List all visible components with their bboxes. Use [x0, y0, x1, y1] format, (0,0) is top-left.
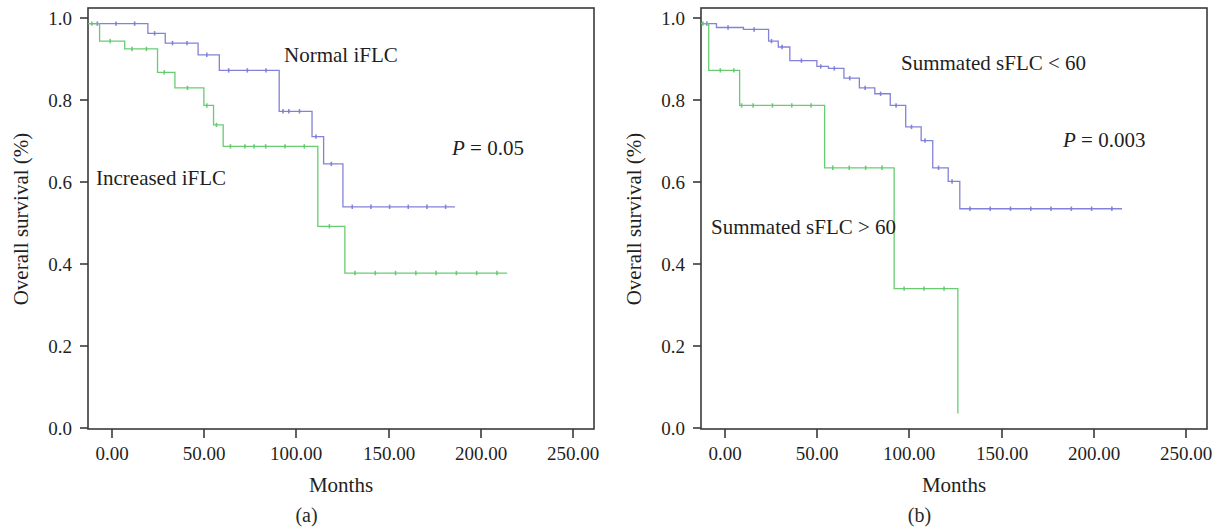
curve-label-increased-iflc: Increased iFLC: [96, 166, 226, 190]
x-tick-label-150: 150.00: [363, 443, 415, 464]
x-tick-label-0: 0.00: [708, 443, 741, 464]
x-tick-label-100: 100.00: [270, 443, 322, 464]
pvalue-symbol: P: [1062, 128, 1076, 152]
x-tick-label-50: 50.00: [796, 443, 839, 464]
y-tick-label-00: 0.0: [48, 418, 72, 439]
y-axis-ticks-a: [80, 18, 88, 428]
panel-b: 1.0 0.8 0.6 0.4 0.2 0.0 0.00 50.00 100.0…: [613, 0, 1226, 531]
y-tick-label-1: 1.0: [48, 8, 72, 29]
x-axis-title: Months: [309, 473, 373, 497]
x-tick-label-0: 0.00: [95, 443, 128, 464]
y-tick-label-06: 0.6: [48, 172, 72, 193]
y-tick-label-04: 0.4: [661, 254, 685, 275]
pvalue-annotation: P = 0.05: [451, 136, 524, 160]
x-tick-label-250: 250.00: [1160, 443, 1212, 464]
x-axis-ticks-a: [112, 429, 573, 438]
y-tick-label-1: 1.0: [661, 8, 685, 29]
x-tick-label-250: 250.00: [547, 443, 599, 464]
y-tick-label-02: 0.2: [48, 336, 72, 357]
x-tick-label-200: 200.00: [1068, 443, 1120, 464]
panel-b-plot: 1.0 0.8 0.6 0.4 0.2 0.0 0.00 50.00 100.0…: [613, 0, 1226, 531]
pvalue-value: = 0.003: [1076, 128, 1146, 152]
x-tick-label-150: 150.00: [976, 443, 1028, 464]
pvalue-value: = 0.05: [465, 136, 524, 160]
x-tick-label-50: 50.00: [183, 443, 226, 464]
y-axis-ticks-b: [693, 18, 701, 428]
curve-label-summated-gt: Summated sFLC > 60: [711, 215, 896, 239]
curve-summated-sflc-lt-60: [701, 21, 1122, 211]
x-tick-label-200: 200.00: [455, 443, 507, 464]
pvalue-symbol: P: [451, 136, 465, 160]
y-tick-label-02: 0.2: [661, 336, 685, 357]
y-tick-label-00: 0.0: [661, 418, 685, 439]
pvalue-annotation: P = 0.003: [1062, 128, 1145, 152]
y-tick-label-06: 0.6: [661, 172, 685, 193]
x-axis-ticks-b: [725, 429, 1186, 438]
curve-label-summated-lt: Summated sFLC < 60: [901, 51, 1086, 75]
y-axis-title: Overall survival (%): [9, 133, 33, 306]
y-axis-title: Overall survival (%): [622, 133, 646, 306]
panel-a: 1.0 0.8 0.6 0.4 0.2 0.0 0.00 50.00 100.0…: [0, 0, 613, 531]
y-tick-label-04: 0.4: [48, 254, 72, 275]
curve-label-normal-iflc: Normal iFLC: [284, 43, 398, 67]
y-tick-label-08: 0.8: [48, 90, 72, 111]
panel-caption-a: (a): [0, 504, 613, 527]
panel-caption-b: (b): [613, 504, 1226, 527]
x-axis-title: Months: [922, 473, 986, 497]
kaplan-meier-figure: 1.0 0.8 0.6 0.4 0.2 0.0 0.00 50.00 100.0…: [0, 0, 1226, 531]
y-tick-label-08: 0.8: [661, 90, 685, 111]
x-tick-label-100: 100.00: [883, 443, 935, 464]
panel-a-plot: 1.0 0.8 0.6 0.4 0.2 0.0 0.00 50.00 100.0…: [0, 0, 613, 531]
